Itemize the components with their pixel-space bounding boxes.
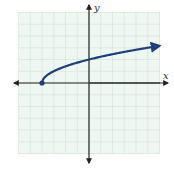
graph: y x: [0, 0, 174, 169]
y-axis-label: y: [93, 2, 100, 13]
x-axis-label: x: [163, 70, 169, 81]
start-point: [39, 80, 44, 85]
